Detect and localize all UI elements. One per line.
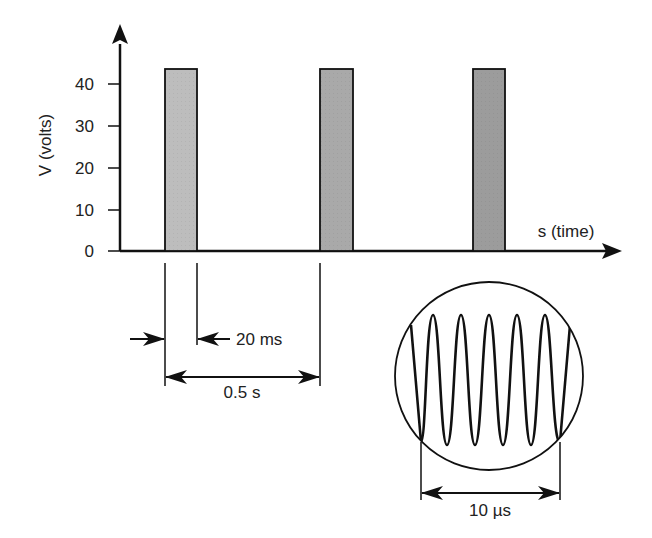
magnified-inset [395,282,583,470]
y-tick-20: 20 [75,159,94,178]
oscillation-period-label: 10 µs [469,501,511,520]
y-tick-0: 0 [85,242,94,261]
pulse-width-label: 20 ms [236,330,282,349]
y-tick-30: 30 [75,117,94,136]
y-tick-10: 10 [75,201,94,220]
y-axis-label: V (volts) [36,114,55,176]
x-axis-label: s (time) [538,222,595,241]
pulse-diagram: 40 30 20 10 0 V (volts) s (time) 20 ms 0… [0,0,652,538]
period-label: 0.5 s [224,383,261,402]
magnifier-circle [395,282,583,470]
pulse-width-dimension: 20 ms [130,263,282,386]
y-tick-40: 40 [75,75,94,94]
y-axis: 40 30 20 10 0 V (volts) [36,24,128,261]
pulses [165,69,505,251]
y-axis-arrow-icon [112,24,128,44]
